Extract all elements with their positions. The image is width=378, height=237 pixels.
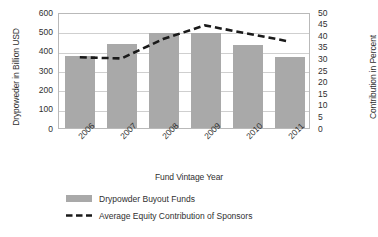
y-axis-right-tick-label: 0: [318, 125, 344, 134]
y-axis-right-tick-label: 40: [318, 32, 344, 41]
x-axis-title: Fund Vintage Year: [0, 172, 378, 182]
y-axis-right-tick-label: 10: [318, 101, 344, 110]
y-axis-left-tick-label: 500: [27, 28, 53, 37]
y-axis-left-tick-label: 600: [27, 9, 53, 18]
y-axis-right-title: Contribution in Percent: [368, 17, 378, 137]
chart-legend: Drypowder Buyout Funds Average Equity Co…: [0, 190, 378, 224]
y-axis-left-title: Drypoweder in Billion USD: [11, 17, 21, 137]
y-axis-right-tick-label: 45: [318, 20, 344, 29]
y-axis-left-tick-label: 200: [27, 86, 53, 95]
y-axis-right-tick-label: 20: [318, 78, 344, 87]
y-axis-right-tick-label: 35: [318, 43, 344, 52]
y-axis-right-tick-label: 25: [318, 67, 344, 76]
chart-figure: Drypoweder in Billion USD Contribution i…: [0, 0, 378, 237]
y-axis-left-tick-label: 0: [27, 125, 53, 134]
y-axis-right-tick-label: 5: [318, 113, 344, 122]
y-axis-left-tick-label: 400: [27, 47, 53, 56]
y-axis-left-tick-label: 100: [27, 105, 53, 114]
y-axis-right-tick-label: 15: [318, 90, 344, 99]
legend-bar-swatch-icon: [66, 195, 92, 202]
y-axis-right-tick-label: 50: [318, 9, 344, 18]
line-series: [59, 14, 309, 128]
y-axis-right-tick-label: 30: [318, 55, 344, 64]
legend-label-bar: Drypowder Buyout Funds: [99, 194, 195, 204]
y-axis-left-tick-label: 300: [27, 67, 53, 76]
legend-label-line: Average Equity Contribution of Sponsors: [99, 211, 252, 221]
plot-area: [58, 13, 310, 129]
legend-dashed-line-icon: [66, 212, 92, 219]
legend-item-line: Average Equity Contribution of Sponsors: [0, 207, 378, 224]
legend-item-bar: Drypowder Buyout Funds: [0, 190, 378, 207]
